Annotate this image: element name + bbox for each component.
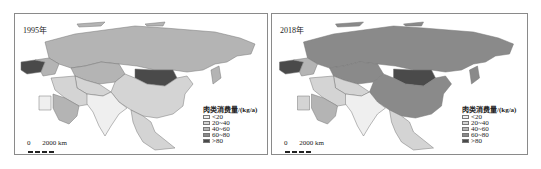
legend-label: >80 — [471, 138, 482, 144]
scale-distance: 2000 km — [42, 139, 67, 147]
legend-swatch — [462, 115, 469, 119]
legend-swatch — [203, 139, 210, 143]
scale-zero: 0 — [27, 139, 31, 147]
legend-item: >80 — [203, 138, 257, 144]
legend-swatch — [203, 133, 210, 137]
scale-bar-label: 0 2000 km — [284, 139, 324, 147]
legend: 肉类消费量/(kg/a) <20 20~40 40~60 60~80 >80 — [462, 107, 516, 144]
region-russia — [45, 26, 255, 72]
legend-swatch — [462, 127, 469, 131]
scale-bar — [285, 151, 311, 153]
region-arctic-islands — [336, 22, 424, 27]
region-arctic-islands — [77, 22, 165, 27]
legend-swatch — [203, 127, 210, 131]
legend-swatch — [203, 121, 210, 125]
scale-zero: 0 — [284, 139, 288, 147]
year-label: 1995年 — [23, 24, 47, 35]
map-panel-1995: 1995年 肉类消费量/(kg/a) <20 20~40 40~60 60~80… — [14, 13, 268, 155]
legend-label: >80 — [212, 138, 223, 144]
region-japan — [211, 66, 221, 84]
legend-swatch — [203, 115, 210, 119]
region-egypt — [298, 96, 310, 110]
legend-swatch — [462, 139, 469, 143]
legend: 肉类消费量/(kg/a) <20 20~40 40~60 60~80 >80 — [203, 107, 257, 144]
legend-item: >80 — [462, 138, 516, 144]
legend-swatch — [462, 133, 469, 137]
map-panel-2018: 2018年 肉类消费量/(kg/a) <20 20~40 40~60 60~80… — [271, 13, 528, 155]
region-egypt — [39, 96, 51, 110]
legend-swatch — [462, 121, 469, 125]
scale-distance: 2000 km — [299, 139, 324, 147]
scale-bar — [28, 151, 54, 153]
year-label: 2018年 — [280, 24, 304, 35]
region-russia — [304, 26, 514, 72]
scale-bar-label: 0 2000 km — [27, 139, 67, 147]
region-japan — [470, 66, 480, 84]
